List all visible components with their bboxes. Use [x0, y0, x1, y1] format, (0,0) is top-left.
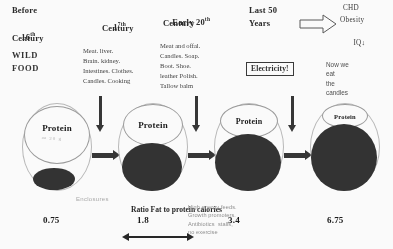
outcome-iq: IQ↓	[345, 27, 365, 60]
column-4-header-line1: Last 50	[249, 6, 277, 16]
protein-oval-1: Protein	[24, 106, 90, 164]
outcome-iq-label: IQ	[353, 39, 361, 47]
protein-oval-3: Protein	[220, 104, 278, 138]
protein-label-1: Protein	[42, 123, 72, 133]
ratio-value-1: 0.75	[43, 215, 60, 225]
protein-amount-note-1: ™ 20 g	[41, 136, 62, 142]
intensive-farming-annotation: High energy feeds. Growth promoters. Ant…	[188, 203, 237, 237]
fat-mass-2	[122, 143, 182, 191]
column-1-header-line3: Century	[12, 34, 44, 44]
column-3-body-text: Meat and offal. Candles. Soap. Boot. Sho…	[160, 41, 200, 90]
progression-arrow-1	[92, 153, 114, 158]
ratio-value-4: 6.75	[327, 215, 344, 225]
protein-label-4: Protein	[334, 113, 356, 120]
column-3-header-ordinal: th	[205, 16, 210, 22]
down-arrow-icon: ↓	[362, 39, 366, 47]
protein-label-2: Protein	[138, 120, 168, 130]
outcome-obesity: Obesity	[340, 15, 364, 26]
ratio-range-arrow	[128, 236, 188, 238]
now-we-eat-the-candles-note: Now we eat the candles	[326, 60, 349, 97]
electricity-callout: Electricity!	[246, 62, 294, 76]
column-3-header-line2: Century	[163, 19, 195, 29]
enclosures-annotation: Enclosures	[76, 196, 109, 203]
down-arrow-1	[99, 96, 102, 126]
right-arrow-outline-icon	[299, 14, 337, 38]
column-2-body-text: Meat. liver. Brain. kidney. Intestines. …	[83, 46, 133, 86]
column-4-header-line2: Years	[249, 19, 270, 29]
fat-mass-4	[311, 124, 377, 191]
column-1-header-line1: Before	[12, 6, 37, 16]
ratio-value-2: 1.8	[137, 215, 149, 225]
down-arrow-2	[195, 96, 198, 126]
protein-oval-2: Protein	[123, 104, 183, 146]
diagram-canvas: Before 16th Century WILD FOOD 17th Centu…	[0, 0, 393, 249]
down-arrow-3	[291, 96, 294, 126]
fat-mass-3	[215, 134, 281, 191]
outcome-chd: CHD	[343, 3, 359, 14]
column-1-subtitle-line2: FOOD	[12, 64, 39, 74]
fat-mass-1	[33, 168, 75, 190]
column-1-subtitle-line1: WILD	[12, 51, 38, 61]
progression-arrow-3	[284, 153, 306, 158]
column-2-header-line2: Century	[102, 24, 134, 34]
protein-label-3: Protein	[236, 117, 263, 126]
progression-arrow-2	[188, 153, 210, 158]
